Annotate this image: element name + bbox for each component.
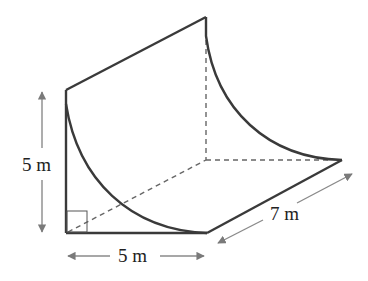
top-edge [66,17,206,90]
diagram-canvas: 5 m 5 m 7 m [0,0,368,281]
width-label: 5 m [116,246,149,266]
prism-figure [0,0,368,281]
height-label: 5 m [20,155,53,175]
length-label: 7 m [268,204,301,224]
right-angle-marker [67,211,87,232]
hidden-depth-edge [68,160,206,232]
back-curve [206,17,342,160]
length-arrow-upper [297,174,352,203]
